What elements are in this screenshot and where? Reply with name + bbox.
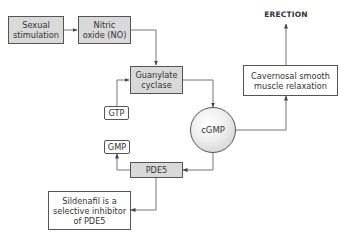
node-label: Nitric oxide (NO) — [83, 20, 127, 40]
node-label: GMP — [108, 142, 126, 152]
node-label: Cavernosal smooth muscle relaxation — [246, 71, 336, 91]
node-cgmp: cGMP — [190, 107, 236, 153]
node-label: cGMP — [201, 125, 225, 135]
node-label: GTP — [109, 108, 125, 118]
node-label: Sildenafil is a selective inhibitor of P… — [51, 196, 129, 226]
node-label: PDE5 — [146, 165, 168, 175]
node-label: Guanylate cyclase — [134, 70, 180, 90]
node-pde5: PDE5 — [130, 162, 183, 178]
node-nitric-oxide: Nitric oxide (NO) — [78, 16, 131, 44]
node-guanylate-cyclase: Guanylate cyclase — [130, 66, 183, 94]
node-sildenafil: Sildenafil is a selective inhibitor of P… — [48, 191, 131, 230]
node-gmp: GMP — [104, 140, 130, 154]
node-gtp: GTP — [104, 106, 129, 120]
node-label: Sexual stimulation — [9, 20, 63, 40]
node-erection: ERECTION — [260, 10, 312, 19]
node-cavernosal-relaxation: Cavernosal smooth muscle relaxation — [243, 65, 338, 96]
node-sexual-stimulation: Sexual stimulation — [8, 16, 64, 44]
